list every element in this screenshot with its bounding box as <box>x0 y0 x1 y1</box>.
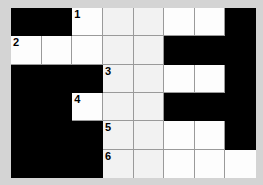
grid-block-cell <box>72 121 103 149</box>
grid-open-cell[interactable] <box>225 150 256 178</box>
crossword-puzzle: 123456 <box>11 8 256 178</box>
clue-number: 1 <box>74 8 80 21</box>
grid-open-cell[interactable] <box>103 8 134 36</box>
grid-block-cell <box>42 121 73 149</box>
grid-block-cell <box>11 65 42 93</box>
grid-open-cell[interactable] <box>164 8 195 36</box>
grid-open-cell[interactable]: 4 <box>72 93 103 121</box>
grid-open-cell[interactable]: 6 <box>103 150 134 178</box>
grid-open-cell[interactable] <box>164 65 195 93</box>
grid-block-cell <box>225 121 256 149</box>
grid-block-cell <box>225 8 256 36</box>
grid-open-cell[interactable] <box>164 150 195 178</box>
grid-open-cell[interactable] <box>134 150 165 178</box>
grid-block-cell <box>42 93 73 121</box>
grid-block-cell <box>195 36 226 64</box>
clue-number: 3 <box>105 65 111 78</box>
clue-number: 6 <box>105 150 111 163</box>
grid-open-cell[interactable] <box>195 121 226 149</box>
grid-open-cell[interactable]: 3 <box>103 65 134 93</box>
grid-open-cell[interactable] <box>164 121 195 149</box>
grid-open-cell[interactable] <box>195 150 226 178</box>
clue-number: 2 <box>13 36 19 49</box>
grid-block-cell <box>195 93 226 121</box>
grid-block-cell <box>225 93 256 121</box>
grid-block-cell <box>164 36 195 64</box>
grid-open-cell[interactable] <box>103 93 134 121</box>
grid-open-cell[interactable] <box>134 36 165 64</box>
grid-block-cell <box>42 8 73 36</box>
grid-open-cell[interactable]: 5 <box>103 121 134 149</box>
grid-block-cell <box>164 93 195 121</box>
grid-open-cell[interactable]: 1 <box>72 8 103 36</box>
grid-open-cell[interactable] <box>72 36 103 64</box>
grid-open-cell[interactable] <box>42 36 73 64</box>
grid-open-cell[interactable] <box>134 65 165 93</box>
grid-open-cell[interactable] <box>195 65 226 93</box>
grid-block-cell <box>72 150 103 178</box>
grid-open-cell[interactable] <box>134 8 165 36</box>
clue-number: 4 <box>74 93 80 106</box>
grid-block-cell <box>72 65 103 93</box>
grid-open-cell[interactable] <box>134 121 165 149</box>
grid-block-cell <box>42 150 73 178</box>
grid-block-cell <box>225 36 256 64</box>
grid-block-cell <box>11 121 42 149</box>
grid-open-cell[interactable] <box>195 8 226 36</box>
grid-block-cell <box>42 65 73 93</box>
grid-block-cell <box>11 150 42 178</box>
grid-open-cell[interactable] <box>103 36 134 64</box>
grid-open-cell[interactable] <box>134 93 165 121</box>
grid-open-cell[interactable]: 2 <box>11 36 42 64</box>
grid-block-cell <box>225 65 256 93</box>
grid-block-cell <box>11 93 42 121</box>
grid-block-cell <box>11 8 42 36</box>
clue-number: 5 <box>105 121 111 134</box>
crossword-grid: 123456 <box>11 8 256 178</box>
